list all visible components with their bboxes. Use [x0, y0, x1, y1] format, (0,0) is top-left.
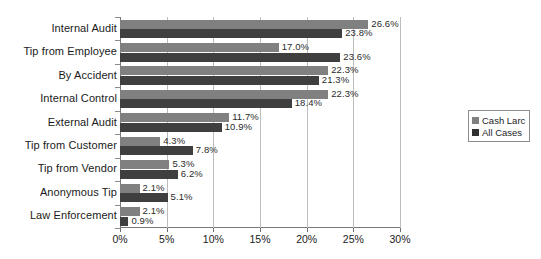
x-axis-tick-label: 0% [112, 233, 127, 245]
category-label: Internal Control [40, 92, 117, 104]
x-axis-tick-label: 15% [249, 233, 270, 245]
bar-value-label: 22.3% [331, 88, 358, 99]
x-tick [260, 228, 261, 232]
legend-item: Cash Larc [472, 114, 525, 126]
bar-cash-larc [120, 137, 160, 146]
bar-value-label: 7.8% [196, 144, 218, 155]
bar-value-label: 18.4% [295, 97, 322, 108]
y-tick [115, 134, 120, 135]
y-tick [115, 228, 120, 229]
bar-value-label: 23.8% [345, 27, 372, 38]
y-tick [115, 111, 120, 112]
category-label: Tip from Employee [23, 45, 117, 57]
y-tick [115, 181, 120, 182]
legend-swatch-icon [472, 117, 479, 124]
category-label: By Accident [58, 69, 117, 81]
category-label: Law Enforcement [30, 209, 117, 221]
bar-cash-larc [120, 66, 328, 75]
x-tick [120, 228, 121, 232]
gridline [353, 17, 354, 228]
category-label: External Audit [48, 116, 117, 128]
x-tick [307, 228, 308, 232]
bar-value-label: 0.9% [131, 215, 153, 226]
y-tick [115, 17, 120, 18]
y-tick [115, 64, 120, 65]
bar-all-cases [120, 170, 178, 179]
bar-value-label: 26.6% [371, 18, 398, 29]
category-label: Tip from Vendor [38, 162, 117, 174]
x-axis-tick-label: 20% [296, 233, 317, 245]
bar-all-cases [120, 193, 168, 202]
bar-all-cases [120, 123, 222, 132]
gridline [400, 17, 401, 228]
x-axis-tick-label: 25% [343, 233, 364, 245]
bar-value-label: 17.0% [282, 41, 309, 52]
bar-cash-larc [120, 20, 368, 29]
bar-all-cases [120, 76, 319, 85]
category-label: Tip from Customer [25, 139, 117, 151]
bar-value-label: 4.3% [163, 135, 185, 146]
bar-value-label: 5.1% [171, 191, 193, 202]
legend-label: Cash Larc [482, 115, 525, 126]
bar-cash-larc [120, 160, 169, 169]
bar-value-label: 21.3% [322, 74, 349, 85]
x-tick [167, 228, 168, 232]
legend-label: All Cases [482, 127, 522, 138]
bar-value-label: 2.1% [143, 182, 165, 193]
bar-value-label: 23.6% [343, 51, 370, 62]
x-axis-tick-label: 10% [203, 233, 224, 245]
category-label: Internal Audit [51, 22, 117, 34]
bar-all-cases [120, 146, 193, 155]
y-tick [115, 158, 120, 159]
bar-cash-larc [120, 113, 229, 122]
x-axis-tick-label: 30% [389, 233, 410, 245]
bar-cash-larc [120, 43, 279, 52]
y-tick [115, 40, 120, 41]
bar-value-label: 10.9% [225, 121, 252, 132]
category-label: Anonymous Tip [40, 186, 117, 198]
y-tick [115, 87, 120, 88]
bar-all-cases [120, 29, 342, 38]
x-axis-tick-label: 5% [159, 233, 174, 245]
bar-cash-larc [120, 184, 140, 193]
bar-value-label: 6.2% [181, 168, 203, 179]
x-tick [400, 228, 401, 232]
legend-item: All Cases [472, 126, 525, 138]
x-tick [353, 228, 354, 232]
bar-chart: Internal Audit26.6%23.8%Tip from Employe… [0, 0, 541, 259]
y-tick [115, 205, 120, 206]
bar-all-cases [120, 217, 128, 226]
chart-legend: Cash LarcAll Cases [468, 110, 530, 142]
x-tick [213, 228, 214, 232]
bar-all-cases [120, 99, 292, 108]
bar-all-cases [120, 53, 340, 62]
legend-swatch-icon [472, 129, 479, 136]
